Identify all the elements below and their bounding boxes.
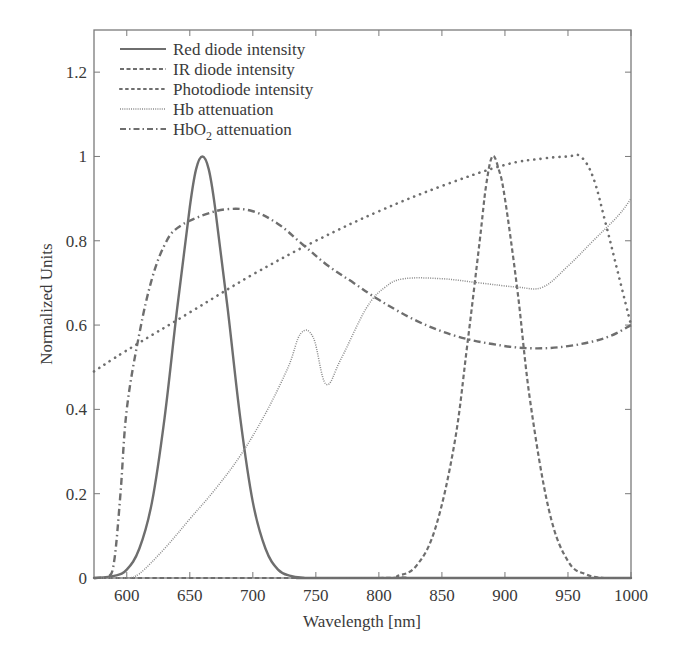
legend: Red diode intensity IR diode intensity P… (120, 40, 314, 143)
y-tick-label: 0.4 (66, 400, 88, 419)
series-layer (94, 155, 631, 578)
x-axis-title: Wavelength [nm] (303, 612, 421, 631)
x-tick-label: 900 (492, 586, 518, 605)
legend-item-ir-diode: IR diode intensity (120, 60, 295, 79)
chart-canvas: 6006507007508008509009501000 00.20.40.60… (0, 0, 681, 665)
x-tick-label: 1000 (614, 586, 648, 605)
y-tick-label: 0 (79, 569, 88, 588)
series-line-hbo2-attenuation (94, 209, 631, 578)
x-tick-label: 800 (366, 586, 392, 605)
legend-item-hbo2: HbO2 attenuation (120, 120, 292, 143)
legend-item-photodiode: Photodiode intensity (120, 80, 314, 99)
y-axis-title: Normalized Units (37, 243, 56, 364)
legend-item-hb: Hb attenuation (120, 100, 274, 119)
y-tick-label: 0.2 (66, 485, 87, 504)
x-tick-label: 650 (177, 586, 203, 605)
series-line-hb-attenuation (94, 199, 631, 578)
x-tick-label: 700 (240, 586, 266, 605)
x-tick-label: 600 (114, 586, 140, 605)
legend-label: HbO2 attenuation (173, 120, 292, 143)
x-tick-label: 950 (555, 586, 581, 605)
y-tick-label: 1.2 (66, 63, 87, 82)
legend-label: IR diode intensity (173, 60, 295, 79)
y-tick-label: 0.6 (66, 316, 87, 335)
legend-label: Hb attenuation (173, 100, 274, 119)
x-tick-label: 750 (303, 586, 329, 605)
legend-item-red-diode: Red diode intensity (120, 40, 306, 59)
legend-label: Red diode intensity (173, 40, 306, 59)
x-tick-label: 850 (429, 586, 455, 605)
y-tick-label: 0.8 (66, 232, 87, 251)
y-tick-label: 1 (79, 147, 88, 166)
legend-label: Photodiode intensity (173, 80, 314, 99)
